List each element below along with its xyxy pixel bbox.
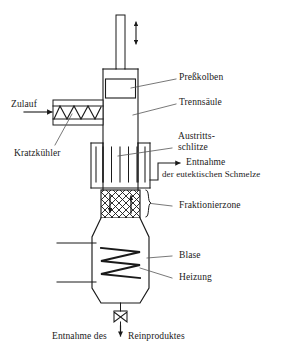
label-eutectic-draw-line2: der eutektischen Schmelze <box>162 169 260 180</box>
heating-supply-lines <box>57 243 96 282</box>
label-still: Blase <box>179 250 201 261</box>
label-separation-column: Trennsäule <box>179 97 222 108</box>
label-press-piston: Preßkolben <box>179 72 223 83</box>
piston-rod <box>116 15 125 69</box>
exit-slits-section <box>91 143 150 190</box>
label-exit-slits-line2: schlitze <box>178 142 208 153</box>
label-heating: Heizung <box>179 272 212 283</box>
label-fractionating-zone: Fraktionierzone <box>179 200 241 211</box>
label-feed: Zulauf <box>11 99 37 110</box>
label-scraper-cooler: Kratzkühler <box>14 148 60 159</box>
bowtie-valve-icon <box>114 312 127 322</box>
still-leader <box>147 256 172 258</box>
separation-column-leader <box>133 104 176 115</box>
label-exit-slits-line1: Austritts- <box>178 131 215 142</box>
label-eutectic-draw-line1: Entnahme <box>186 157 225 168</box>
piston-head <box>106 79 136 98</box>
label-product-draw-right: Reinproduktes <box>128 331 185 342</box>
fractionating-zone <box>101 190 140 218</box>
scraper-cooler <box>53 100 103 125</box>
label-product-draw-left: Entnahme des <box>52 331 107 342</box>
still-vessel <box>92 218 149 303</box>
fractionating-zone-bracket <box>146 190 172 217</box>
figure-canvas: Preßkolben Trennsäule Austritts- schlitz… <box>0 0 290 346</box>
